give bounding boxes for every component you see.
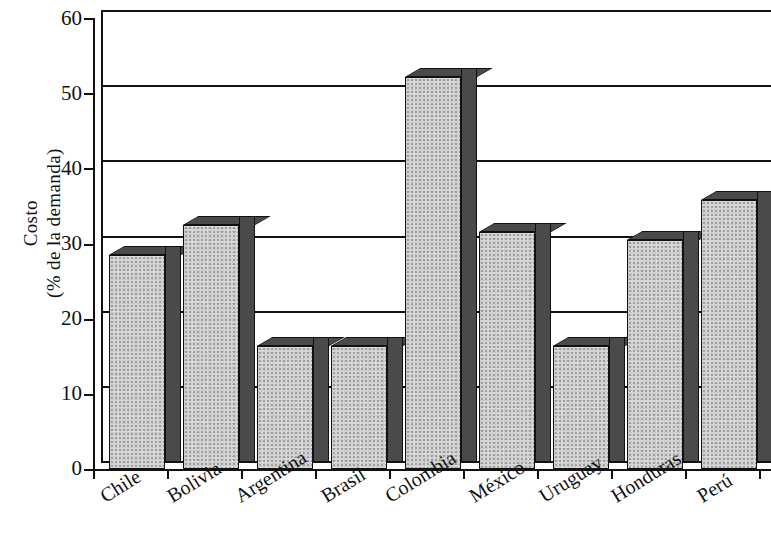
x-tick-9 (759, 469, 761, 479)
bar-front-face (257, 346, 313, 469)
y-axis-title: Costo (% de la demanda) (19, 123, 65, 323)
bar-front-face (331, 346, 387, 469)
plot-area: Chile Bolivia Argentina Brasil Colombia … (93, 10, 771, 469)
x-tick-4 (389, 469, 391, 479)
y-tick-20 (84, 319, 93, 321)
bar-mexico (479, 10, 535, 469)
x-tick-1 (167, 469, 169, 479)
y-tick-50 (84, 93, 93, 95)
bar-side-face (609, 338, 625, 461)
bar-side-face (461, 69, 477, 461)
x-label-peru: Perú (693, 469, 736, 508)
y-axis-line (93, 18, 95, 469)
bar-side-face (239, 217, 255, 461)
bar-argentina (257, 10, 313, 469)
y-tick-label-10: 10 (42, 381, 82, 406)
x-tick-8 (685, 469, 687, 479)
bar-side-face (313, 338, 329, 461)
y-tick-label-40: 40 (42, 156, 82, 181)
y-axis-title-line1: Costo (19, 123, 42, 323)
bar-honduras (627, 10, 683, 469)
bar-front-face (109, 255, 165, 469)
x-tick-0 (93, 469, 95, 479)
bar-front-face (405, 77, 461, 469)
bar-peru (701, 10, 757, 469)
bar-bolivia (183, 10, 239, 469)
bar-brasil (331, 10, 387, 469)
y-tick-30 (84, 244, 93, 246)
bar-front-face (627, 240, 683, 469)
bar-chile (109, 10, 165, 469)
bar-chart: Costo (% de la demanda) 60 50 40 30 20 1… (0, 0, 771, 543)
bar-colombia (405, 10, 461, 469)
x-tick-2 (241, 469, 243, 479)
bar-side-face (683, 232, 699, 461)
bar-side-face (535, 224, 551, 461)
bar-uruguay (553, 10, 609, 469)
y-axis-title-line2: (% de la demanda) (42, 123, 65, 323)
x-tick-5 (463, 469, 465, 479)
y-tick-label-60: 60 (42, 6, 82, 31)
y-tick-label-0: 0 (42, 456, 82, 481)
y-tick-0 (84, 469, 93, 471)
bar-front-face (553, 346, 609, 469)
y-tick-40 (84, 168, 93, 170)
x-tick-3 (315, 469, 317, 479)
y-tick-10 (84, 394, 93, 396)
bar-front-face (701, 200, 757, 469)
bar-front-face (479, 232, 535, 469)
bar-side-face (387, 338, 403, 461)
y-tick-60 (84, 18, 93, 20)
x-tick-6 (537, 469, 539, 479)
y-tick-label-30: 30 (42, 231, 82, 256)
bar-side-face (165, 247, 181, 461)
x-tick-7 (611, 469, 613, 479)
x-label-chile: Chile (96, 465, 145, 507)
y-tick-label-50: 50 (42, 81, 82, 106)
bar-front-face (183, 225, 239, 469)
bar-side-face (757, 192, 771, 461)
y-tick-label-20: 20 (42, 306, 82, 331)
